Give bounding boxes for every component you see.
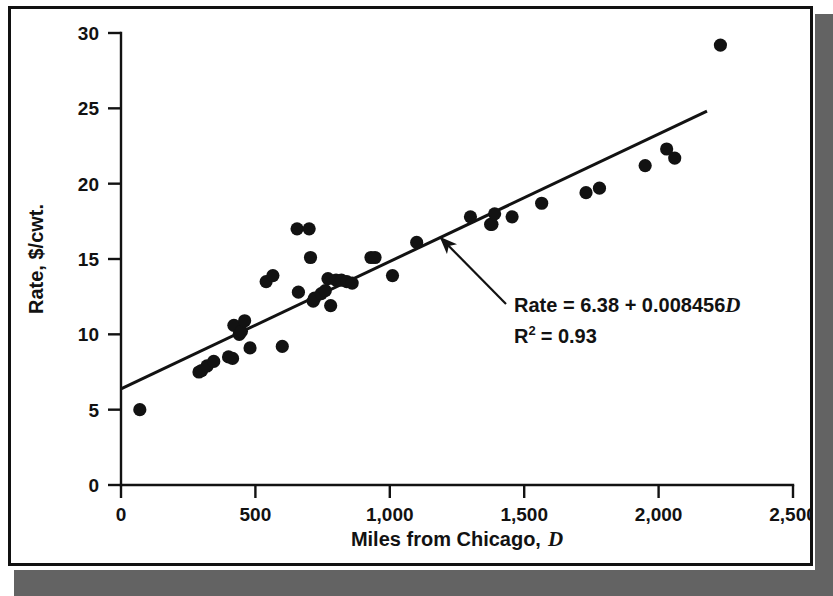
data-point (133, 403, 146, 416)
figure-frame: 051015202530 05001,0001,5002,0002,500 Ra… (8, 6, 813, 566)
y-tick-label: 20 (78, 174, 99, 195)
data-point (207, 355, 220, 368)
figure-shadow-right (815, 14, 833, 596)
data-point (368, 251, 381, 264)
scatter-points-group (133, 38, 727, 416)
data-point (488, 207, 501, 220)
data-point (324, 299, 337, 312)
x-axis-title: Miles from Chicago,D (351, 527, 563, 551)
data-point (464, 210, 477, 223)
data-point (276, 340, 289, 353)
y-tick-label: 0 (88, 475, 99, 496)
data-point (290, 222, 303, 235)
figure-root: 051015202530 05001,0001,5002,0002,500 Ra… (0, 0, 833, 596)
data-point (303, 222, 316, 235)
data-point (639, 159, 652, 172)
y-tick-label: 10 (78, 324, 99, 345)
x-tick-label: 2,500 (769, 504, 810, 525)
x-tick-label: 1,000 (366, 504, 414, 525)
annotation-equation: Rate = 6.38 + 0.008456D (514, 293, 740, 317)
scatter-plot: 051015202530 05001,0001,5002,0002,500 Ra… (11, 9, 810, 563)
data-point (304, 251, 317, 264)
y-axis-ticks: 051015202530 (78, 23, 121, 496)
y-tick-label: 5 (88, 400, 99, 421)
figure-shadow-bottom (14, 570, 833, 596)
data-point (410, 236, 423, 249)
x-tick-label: 1,500 (500, 504, 548, 525)
data-point (346, 277, 359, 290)
data-point (292, 286, 305, 299)
data-point (386, 269, 399, 282)
y-tick-label: 25 (78, 98, 100, 119)
data-point (238, 314, 251, 327)
data-point (579, 186, 592, 199)
data-point (535, 197, 548, 210)
data-point (506, 210, 519, 223)
x-tick-label: 0 (116, 504, 127, 525)
data-point (243, 341, 256, 354)
annotation-r-squared: R2= 0.93 (514, 323, 597, 347)
data-point (593, 182, 606, 195)
x-axis-ticks: 05001,0001,5002,0002,500 (116, 485, 810, 525)
data-point (668, 151, 681, 164)
annotation-leader-arrow (441, 238, 506, 304)
y-tick-label: 15 (78, 249, 100, 270)
x-tick-label: 2,000 (635, 504, 683, 525)
y-axis-title: Rate, $/cwt. (25, 204, 47, 314)
y-tick-label: 30 (78, 23, 99, 44)
data-point (226, 352, 239, 365)
data-point (714, 38, 727, 51)
data-point (266, 269, 279, 282)
regression-fit-line (121, 111, 707, 389)
data-point (319, 284, 332, 297)
x-tick-label: 500 (240, 504, 272, 525)
